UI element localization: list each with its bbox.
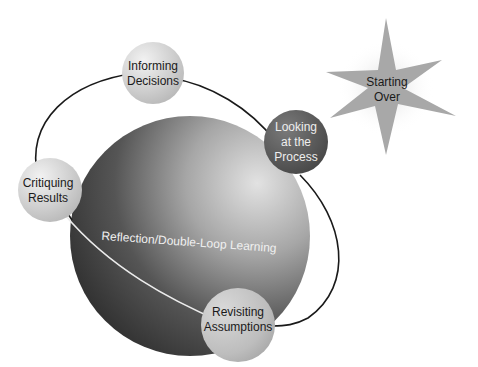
node-revisiting-assumptions: Revisiting Assumptions bbox=[204, 305, 273, 335]
starting-over-label: Starting Over bbox=[366, 75, 407, 105]
node-looking-at-process: Looking at the Process bbox=[274, 120, 317, 165]
node-critiquing-results: Critiquing Results bbox=[23, 176, 74, 206]
double-loop-learning-diagram: Informing Decisions Looking at the Proce… bbox=[0, 0, 478, 367]
node-informing-decisions: Informing Decisions bbox=[127, 59, 179, 89]
